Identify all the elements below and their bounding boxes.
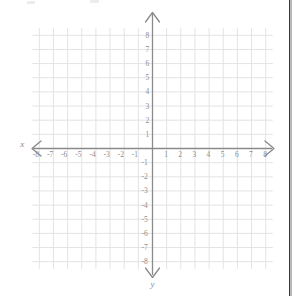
x-axis-tick-label: -5 [75, 151, 81, 159]
x-axis-tick-label: 2 [178, 151, 182, 159]
y-axis-tick-label: -1 [142, 159, 148, 167]
coordinate-plane: -8-7-6-5-4-3-2-112345678 87654321-1-2-3-… [0, 0, 299, 296]
y-axis-tick-label: -7 [142, 244, 148, 252]
y-axis-tick-label: 5 [146, 74, 150, 82]
x-axis-label: x [20, 140, 24, 149]
y-axis-tick-label: 1 [146, 131, 150, 139]
x-axis-tick-label: -1 [132, 151, 138, 159]
y-axis-tick-label: 8 [146, 32, 150, 40]
page-edge-shadow [290, 0, 292, 296]
y-axis-tick-label: -8 [142, 258, 148, 266]
x-axis-tick-label: -7 [47, 151, 53, 159]
y-axis-tick-label: -2 [142, 173, 148, 181]
y-axis-tick-label: 2 [146, 117, 150, 125]
x-axis-tick-label: 3 [192, 151, 196, 159]
x-axis-tick-label: -2 [118, 151, 124, 159]
coordinate-plane-svg [0, 0, 299, 296]
x-axis-tick-label: -4 [89, 151, 95, 159]
y-axis-tick-label: -6 [142, 230, 148, 238]
x-axis-tick-label: 7 [249, 151, 253, 159]
y-axis-label: y [151, 280, 155, 289]
x-axis-tick-label: 5 [221, 151, 225, 159]
x-axis-tick-label: -6 [61, 151, 67, 159]
x-axis-tick-label: -8 [33, 151, 39, 159]
x-axis-tick-label: 6 [235, 151, 239, 159]
y-axis-tick-label: 4 [146, 88, 150, 96]
x-axis-tick-label: 8 [263, 151, 267, 159]
y-axis-tick-label: -5 [142, 216, 148, 224]
y-axis-tick-label: -3 [142, 187, 148, 195]
y-axis-tick-label: 6 [146, 60, 150, 68]
x-axis-tick-label: -3 [104, 151, 110, 159]
y-axis-tick-label: -4 [142, 202, 148, 210]
worksheet-graph-screenshot: -8-7-6-5-4-3-2-112345678 87654321-1-2-3-… [0, 0, 299, 296]
y-axis-tick-label: 7 [146, 46, 150, 54]
x-axis-tick-label: 1 [164, 151, 168, 159]
y-axis-tick-label: 3 [146, 103, 150, 111]
x-axis-tick-label: 4 [207, 151, 211, 159]
